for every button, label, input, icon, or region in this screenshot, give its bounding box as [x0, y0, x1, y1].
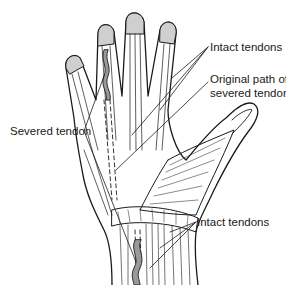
- intact-tendons-top-label: Intact tendons: [210, 40, 282, 54]
- severed-tendon-label: Severed tendon: [10, 124, 91, 138]
- original-path-line2: severed tendon: [210, 86, 286, 100]
- intact-tendons-bottom-label: Intact tendons: [197, 215, 269, 229]
- hand-tendon-diagram: Intact tendons Original path of severed …: [0, 0, 286, 285]
- original-path-label: Original path of severed tendon: [210, 72, 286, 100]
- original-path-line1: Original path of: [210, 72, 286, 86]
